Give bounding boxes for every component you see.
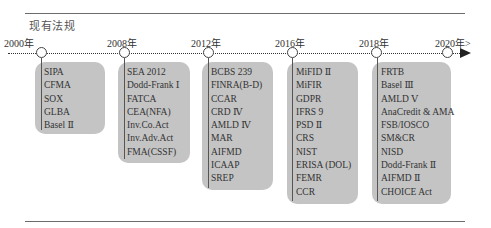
list-item: SEA 2012 (127, 66, 180, 79)
list-item: AMLD Ⅳ (211, 119, 262, 132)
list-item: Dodd-Frank Ⅰ (127, 79, 180, 92)
regulation-list: SIPA CFMA SOX GLBA Basel Ⅱ (44, 66, 74, 132)
list-item: ERISA (DOL) (296, 159, 351, 172)
list-item: ICAAP (211, 159, 262, 172)
list-item: Dodd-Frank Ⅱ (381, 159, 454, 172)
regulation-timeline-diagram: 现有法规 2000年 2008年 2012年 2016年 2018年 2020年… (0, 0, 491, 228)
list-item: AMLD Ⅴ (381, 93, 454, 106)
list-item: FMA(CSSF) (127, 146, 180, 159)
list-item: NISD (381, 146, 454, 159)
list-item: MiFIR (296, 79, 351, 92)
connector-line (124, 58, 125, 159)
list-item: MAR (211, 132, 262, 145)
regulation-list: FRTB Basel Ⅲ AMLD Ⅴ AnaCredit & AMA FSB/… (381, 66, 454, 199)
list-item: FINRA(B-D) (211, 79, 262, 92)
list-item: AIFMD Ⅱ (381, 172, 454, 185)
list-item: Basel Ⅲ (381, 79, 454, 92)
milestone-circle-icon (36, 47, 47, 58)
year-label-2000: 2000年 (4, 35, 34, 50)
list-item: CRD Ⅳ (211, 106, 262, 119)
list-item: IFRS 9 (296, 106, 351, 119)
connector-line (41, 58, 42, 130)
list-item: CFMA (44, 79, 74, 92)
list-item: FATCA (127, 93, 180, 106)
period-box-2016: MiFID Ⅱ MiFIR GDPR IFRS 9 PSD Ⅱ CRS NIST… (287, 62, 358, 204)
list-item: MiFID Ⅱ (296, 66, 351, 79)
list-item: GDPR (296, 93, 351, 106)
year-label-2020: 2020年> (435, 35, 471, 50)
milestone-circle-icon (287, 47, 298, 58)
period-box-2000: SIPA CFMA SOX GLBA Basel Ⅱ (35, 62, 105, 134)
list-item: BCBS 239 (211, 66, 262, 79)
diagram-title: 现有法规 (29, 17, 75, 33)
timeline-axis (8, 53, 462, 54)
milestone-circle-icon (442, 47, 453, 58)
regulation-list: MiFID Ⅱ MiFIR GDPR IFRS 9 PSD Ⅱ CRS NIST… (296, 66, 351, 199)
list-item: CCR (296, 186, 351, 199)
list-item: FRTB (381, 66, 454, 79)
period-box-2008: SEA 2012 Dodd-Frank Ⅰ FATCA CEA(NFA) Inv… (118, 62, 190, 163)
connector-line (208, 58, 209, 188)
list-item: SIPA (44, 66, 74, 79)
list-item: CRS (296, 132, 351, 145)
bottom-rule (25, 221, 465, 222)
regulation-list: BCBS 239 FINRA(B-D) CCAR CRD Ⅳ AMLD Ⅳ MA… (211, 66, 262, 186)
regulation-list: SEA 2012 Dodd-Frank Ⅰ FATCA CEA(NFA) Inv… (127, 66, 180, 159)
connector-line (292, 58, 293, 201)
list-item: FSB/IOSCO (381, 119, 454, 132)
list-item: Inv.Co.Act (127, 119, 180, 132)
list-item: Basel Ⅱ (44, 119, 74, 132)
period-box-2018: FRTB Basel Ⅲ AMLD Ⅴ AnaCredit & AMA FSB/… (372, 62, 451, 204)
list-item: PSD Ⅱ (296, 119, 351, 132)
list-item: SOX (44, 93, 74, 106)
list-item: AIFMD (211, 146, 262, 159)
list-item: CEA(NFA) (127, 106, 180, 119)
list-item: AnaCredit & AMA (381, 106, 454, 119)
list-item: CHOICE Act (381, 186, 454, 199)
top-rule (25, 13, 465, 14)
period-box-2012: BCBS 239 FINRA(B-D) CCAR CRD Ⅳ AMLD Ⅳ MA… (202, 62, 273, 190)
list-item: SM&CR (381, 132, 454, 145)
milestone-circle-icon (203, 47, 214, 58)
list-item: CCAR (211, 93, 262, 106)
list-item: GLBA (44, 106, 74, 119)
milestone-circle-icon (119, 47, 130, 58)
list-item: FEMR (296, 172, 351, 185)
milestone-circle-icon (371, 47, 382, 58)
list-item: Inv.Adv.Act (127, 132, 180, 145)
list-item: NIST (296, 146, 351, 159)
connector-line (377, 58, 378, 201)
list-item: SREP (211, 172, 262, 185)
